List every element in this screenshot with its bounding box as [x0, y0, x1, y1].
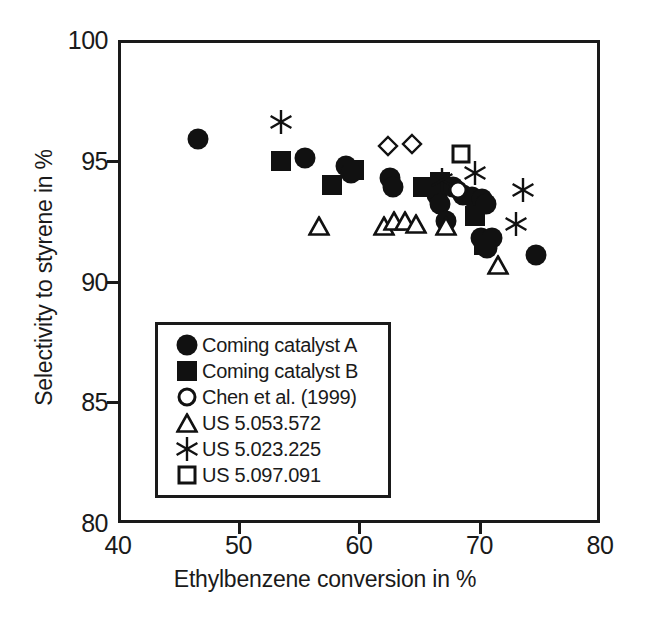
- legend-symbol: [172, 437, 202, 461]
- legend-label: US 5.053.572: [202, 412, 321, 435]
- y-tick-label: 85: [81, 388, 108, 417]
- marker-diamond-open-datapoint: [401, 133, 423, 155]
- legend-label: US 5.023.225: [202, 438, 321, 461]
- legend-label: Coming catalyst B: [202, 360, 358, 383]
- legend-symbol: [172, 411, 202, 435]
- marker-circle-filled: [177, 335, 198, 356]
- y-axis-title: Selectivity to styrene in %: [31, 43, 58, 513]
- marker-asterisk: [174, 436, 200, 462]
- chart-legend: Coming catalyst AComing catalyst BChen e…: [155, 322, 391, 498]
- x-tick-label: 50: [225, 531, 252, 560]
- y-tick-label: 95: [81, 146, 108, 175]
- legend-label: Chen et al. (1999): [202, 386, 357, 409]
- marker-diamond-open-datapoint: [377, 135, 399, 157]
- legend-item: Coming catalyst B: [158, 358, 388, 384]
- legend-item: US 5.023.225: [158, 436, 388, 462]
- y-tick-label: 100: [68, 26, 108, 55]
- marker-square-filled: [177, 361, 197, 381]
- legend-item: Chen et al. (1999): [158, 384, 388, 410]
- y-tick: [107, 401, 118, 404]
- x-axis-title: Ethylbenzene conversion in %: [0, 566, 650, 593]
- y-tick: [107, 160, 118, 163]
- marker-circle-open: [178, 388, 197, 407]
- x-tick-label: 80: [587, 531, 614, 560]
- scatter-chart-figure: 4050607080 80859095100 Ethylbenzene conv…: [0, 0, 650, 620]
- x-tick-label: 40: [105, 531, 132, 560]
- legend-symbol: [172, 463, 202, 487]
- y-tick: [107, 281, 118, 284]
- legend-label: Coming catalyst A: [202, 334, 357, 357]
- legend-item: US 5.097.091: [158, 462, 388, 488]
- y-tick-label: 80: [81, 509, 108, 538]
- x-tick-label: 70: [466, 531, 493, 560]
- legend-item: Coming catalyst A: [158, 332, 388, 358]
- legend-label: US 5.097.091: [202, 464, 321, 487]
- legend-symbol: [172, 359, 202, 383]
- y-tick-label: 90: [81, 267, 108, 296]
- legend-symbol: [172, 333, 202, 357]
- legend-item: US 5.053.572: [158, 410, 388, 436]
- marker-triangle-open: [176, 413, 199, 434]
- marker-square-open: [178, 466, 197, 485]
- legend-symbol: [172, 385, 202, 409]
- x-tick-label: 60: [346, 531, 373, 560]
